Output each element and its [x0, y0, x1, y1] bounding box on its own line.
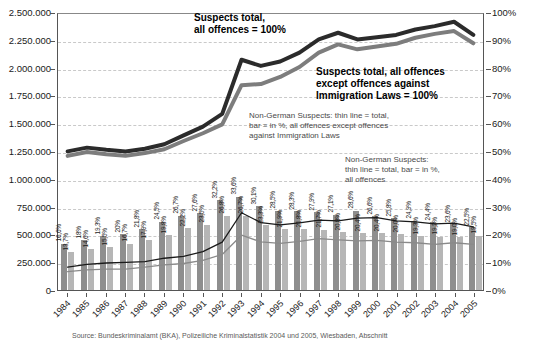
- annotation-nongerman-all: Non-German Suspects: thin line = total, …: [345, 155, 440, 184]
- y-axis-right-tickmark: [486, 291, 491, 292]
- y-axis-right-tickmark: [486, 180, 491, 181]
- x-axis-tickmark: [397, 293, 398, 297]
- x-axis-tickmark: [280, 293, 281, 297]
- x-axis-tick-label: 1994: [246, 299, 267, 320]
- plot-area: 16,6%13,7%18%14,6%19,3%15,5%20%16,7%21,8…: [57, 13, 484, 291]
- y-axis-left-tickmark: [50, 180, 55, 181]
- x-axis-tick-label: 2002: [401, 299, 422, 320]
- x-axis-tickmark: [86, 293, 87, 297]
- y-axis-left-tick: 1.250.000: [9, 147, 51, 157]
- x-axis-tickmark: [358, 293, 359, 297]
- x-axis-tick-label: 1997: [304, 299, 325, 320]
- y-axis-left-tick: 250.000: [17, 258, 51, 268]
- annotation-suspects-total-excl: Suspects total, all offences except offe…: [316, 66, 445, 103]
- x-axis-tickmark: [474, 293, 475, 297]
- y-axis-right-tickmark: [486, 152, 491, 153]
- x-axis-tickmark: [319, 293, 320, 297]
- y-axis-left-tick: 1.000.000: [9, 175, 51, 185]
- x-axis-tick-label: 2003: [420, 299, 441, 320]
- y-axis-right-tick: 100%: [492, 8, 516, 18]
- y-axis-left-tick: 500.000: [17, 230, 51, 240]
- y-axis-left-tick: 750.000: [17, 203, 51, 213]
- x-axis-tick-label: 1993: [226, 299, 247, 320]
- y-axis-right-tickmark: [486, 96, 491, 97]
- x-axis-tick-label: 1986: [90, 299, 111, 320]
- x-axis-tickmark: [222, 293, 223, 297]
- y-axis-right-tick: 80%: [492, 64, 511, 74]
- source-note: Source: Bundeskriminalamt (BKA), Polizei…: [72, 332, 388, 339]
- x-axis-tick-label: 1999: [343, 299, 364, 320]
- x-axis-tick-label: 1991: [187, 299, 208, 320]
- y-axis-left-tickmark: [50, 291, 55, 292]
- y-axis-left-tick: 1.500.000: [9, 119, 51, 129]
- x-axis-tickmark: [377, 293, 378, 297]
- x-axis-tick-label: 1996: [284, 299, 305, 320]
- y-axis-right-tick: 90%: [492, 36, 511, 46]
- y-axis-left-tick: 2.500.000: [9, 8, 51, 18]
- y-axis-right-tickmark: [486, 13, 491, 14]
- y-axis-right-tickmark: [486, 235, 491, 236]
- x-axis-tick-label: 1989: [149, 299, 170, 320]
- y-axis-left-tick: 2.250.000: [9, 36, 51, 46]
- y-axis-left: 2.500.0002.250.0002.000.0001.750.0001.50…: [0, 13, 55, 291]
- y-axis-left-tickmark: [50, 41, 55, 42]
- x-axis-tick-label: 2001: [381, 299, 402, 320]
- y-axis-left-tickmark: [50, 263, 55, 264]
- x-axis-tick-label: 1984: [52, 299, 73, 320]
- x-axis-tickmark: [67, 293, 68, 297]
- line-series-layer: [58, 14, 483, 290]
- x-axis-tickmark: [106, 293, 107, 297]
- y-axis-left-tickmark: [50, 124, 55, 125]
- x-axis-tickmark: [435, 293, 436, 297]
- y-axis-right-tickmark: [486, 41, 491, 42]
- y-axis-left-tickmark: [50, 96, 55, 97]
- x-axis-tick-label: 2004: [440, 299, 461, 320]
- y-axis-left-tickmark: [50, 69, 55, 70]
- y-axis-right-tick: 70%: [492, 91, 511, 101]
- x-axis-tickmark: [241, 293, 242, 297]
- x-axis-tick-label: 1988: [129, 299, 150, 320]
- y-axis-left-tick: 1.750.000: [9, 91, 51, 101]
- x-axis-tickmark: [183, 293, 184, 297]
- y-axis-left-tickmark: [50, 13, 55, 14]
- x-axis-tickmark: [416, 293, 417, 297]
- annotation-nongerman-excl: Non-German Suspects: thin line = total, …: [249, 111, 389, 140]
- y-axis-right-tickmark: [486, 69, 491, 70]
- y-axis-right-tick: 60%: [492, 119, 511, 129]
- x-axis-tick-label: 1992: [207, 299, 228, 320]
- x-axis-tick-label: 1998: [323, 299, 344, 320]
- y-axis-right-tick: 30%: [492, 203, 511, 213]
- x-axis-tick-label: 2005: [459, 299, 480, 320]
- y-axis-left-tickmark: [50, 152, 55, 153]
- y-axis-right-tick: 10%: [492, 258, 511, 268]
- x-axis-tick-label: 1990: [168, 299, 189, 320]
- y-axis-right-tick: 20%: [492, 230, 511, 240]
- x-axis-tick-label: 1985: [71, 299, 92, 320]
- line-series: [68, 213, 474, 267]
- x-axis-tickmark: [203, 293, 204, 297]
- y-axis-right-tick: 40%: [492, 175, 511, 185]
- line-series: [68, 235, 474, 271]
- y-axis-right-tickmark: [486, 208, 491, 209]
- x-axis-tickmark: [164, 293, 165, 297]
- x-axis-tickmark: [455, 293, 456, 297]
- y-axis-right: 100%90%80%70%60%50%40%30%20%10%0%: [486, 13, 533, 291]
- x-axis-tickmark: [300, 293, 301, 297]
- chart-container: 2.500.0002.250.0002.000.0001.750.0001.50…: [0, 0, 533, 341]
- x-axis-tick-label: 1995: [265, 299, 286, 320]
- x-axis-tick-label: 2000: [362, 299, 383, 320]
- y-axis-right-tick: 50%: [492, 147, 511, 157]
- y-axis-left-tick: 2.000.000: [9, 64, 51, 74]
- x-axis-tickmark: [338, 293, 339, 297]
- y-axis-left-tickmark: [50, 208, 55, 209]
- x-axis-tick-label: 1987: [110, 299, 131, 320]
- x-axis-tickmark: [144, 293, 145, 297]
- y-axis-right-tickmark: [486, 263, 491, 264]
- x-axis-tickmark: [125, 293, 126, 297]
- y-axis-right-tick: 0%: [492, 286, 506, 296]
- y-axis-right-tickmark: [486, 124, 491, 125]
- x-axis-tickmark: [261, 293, 262, 297]
- annotation-suspects-total: Suspects total, all offences = 100%: [194, 12, 286, 36]
